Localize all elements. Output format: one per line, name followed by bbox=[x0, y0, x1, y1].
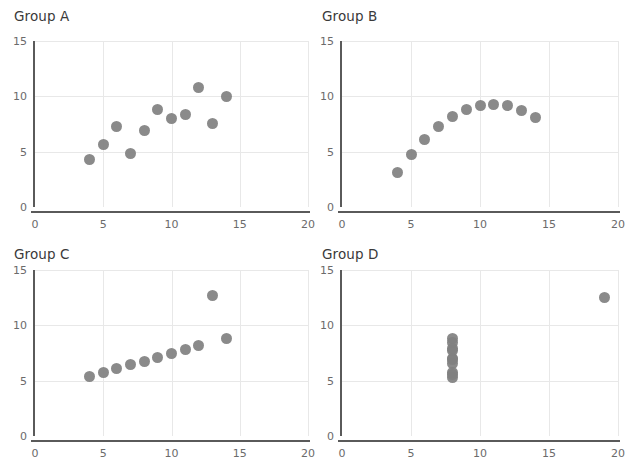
y-tick-label: 0 bbox=[308, 430, 334, 443]
plot-area bbox=[342, 270, 618, 436]
gridline-vertical bbox=[618, 270, 619, 436]
y-axis-spine bbox=[340, 270, 342, 436]
gridline-vertical bbox=[549, 270, 550, 436]
x-tick-label: 20 bbox=[611, 447, 625, 460]
anscombe-quartet-figure: Group A05101505101520Group B051015051015… bbox=[0, 0, 636, 475]
panel-title: Group D bbox=[322, 246, 379, 262]
data-point bbox=[447, 343, 458, 354]
y-tick-label: 10 bbox=[308, 319, 334, 332]
x-tick-label: 0 bbox=[339, 447, 346, 460]
y-tick-label: 15 bbox=[308, 264, 334, 277]
data-point bbox=[447, 369, 458, 380]
scatter-panel: Group D05101505101520 bbox=[0, 0, 636, 475]
x-tick-label: 15 bbox=[542, 447, 556, 460]
data-point bbox=[599, 292, 610, 303]
y-tick-label: 5 bbox=[308, 374, 334, 387]
gridline-vertical bbox=[480, 270, 481, 436]
gridline-vertical bbox=[411, 270, 412, 436]
x-axis-spine bbox=[338, 440, 620, 442]
x-tick-label: 10 bbox=[473, 447, 487, 460]
x-tick-label: 5 bbox=[408, 447, 415, 460]
